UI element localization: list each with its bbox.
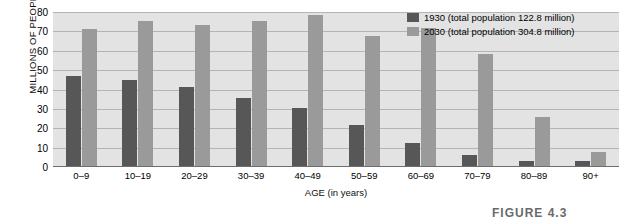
bar-2030-20–29 bbox=[195, 25, 210, 167]
y-tick-label: 60 bbox=[37, 45, 48, 56]
x-axis-title: AGE (in years) bbox=[53, 187, 619, 198]
y-tick-label: 50 bbox=[37, 65, 48, 76]
figure-caption-text: FIGURE 4.3 bbox=[492, 206, 567, 220]
bar-1930-50–59 bbox=[349, 125, 364, 167]
legend-item-2030: 2030 (total population 304.8 million) bbox=[407, 26, 575, 37]
legend-label-2030: 2030 (total population 304.8 million) bbox=[424, 26, 575, 37]
bar-2030-90+ bbox=[591, 152, 606, 168]
bar-2030-0–9 bbox=[82, 29, 97, 167]
legend-swatch-2030 bbox=[407, 27, 419, 36]
chart-legend: 1930 (total population 122.8 million) 20… bbox=[407, 12, 575, 37]
bar-2030-40–49 bbox=[308, 15, 323, 167]
x-tick-label: 60–69 bbox=[393, 170, 450, 181]
bar-2030-60–69 bbox=[421, 28, 436, 168]
x-tick-label: 30–39 bbox=[223, 170, 280, 181]
bar-1930-0–9 bbox=[66, 76, 81, 167]
y-axis-tick-labels: 01020304050607080 bbox=[22, 12, 48, 167]
y-tick-label: 10 bbox=[37, 142, 48, 153]
bar-2030-50–59 bbox=[365, 36, 380, 167]
bar-2030-30–39 bbox=[252, 21, 267, 167]
bar-group bbox=[110, 12, 167, 167]
y-tick-label: 0 bbox=[42, 162, 48, 173]
x-tick-label: 90+ bbox=[562, 170, 619, 181]
bar-chart-figure: MILLIONS OF PEOPLE 01020304050607080 0–9… bbox=[0, 0, 626, 220]
bar-1930-20–29 bbox=[179, 87, 194, 167]
y-tick-label: 70 bbox=[37, 26, 48, 37]
bar-2030-10–19 bbox=[138, 21, 153, 167]
x-tick-label: 80–89 bbox=[506, 170, 563, 181]
figure-caption: FIGURE 4.3 bbox=[492, 206, 626, 220]
x-axis-line bbox=[53, 166, 619, 167]
x-tick-label: 70–79 bbox=[449, 170, 506, 181]
x-tick-label: 40–49 bbox=[279, 170, 336, 181]
bar-group bbox=[279, 12, 336, 167]
y-tick-label: 80 bbox=[37, 7, 48, 18]
y-tick-label: 30 bbox=[37, 103, 48, 114]
bar-1930-60–69 bbox=[405, 143, 420, 167]
x-tick-label: 0–9 bbox=[53, 170, 110, 181]
bar-group bbox=[53, 12, 110, 167]
x-axis-tick-labels: 0–910–1920–2930–3940–4950–5960–6970–7980… bbox=[53, 170, 619, 181]
bar-1930-10–19 bbox=[122, 80, 137, 167]
bar-group bbox=[166, 12, 223, 167]
legend-swatch-1930 bbox=[407, 13, 419, 22]
legend-item-1930: 1930 (total population 122.8 million) bbox=[407, 12, 575, 23]
bar-1930-40–49 bbox=[292, 108, 307, 167]
y-tick-label: 20 bbox=[37, 123, 48, 134]
bar-2030-70–79 bbox=[478, 54, 493, 167]
bar-group bbox=[336, 12, 393, 167]
x-tick-label: 10–19 bbox=[110, 170, 167, 181]
y-tick-label: 40 bbox=[37, 84, 48, 95]
bar-2030-80–89 bbox=[535, 117, 550, 167]
bar-group bbox=[223, 12, 280, 167]
x-tick-label: 20–29 bbox=[166, 170, 223, 181]
legend-label-1930: 1930 (total population 122.8 million) bbox=[424, 12, 575, 23]
x-tick-label: 50–59 bbox=[336, 170, 393, 181]
bar-1930-30–39 bbox=[236, 98, 251, 167]
